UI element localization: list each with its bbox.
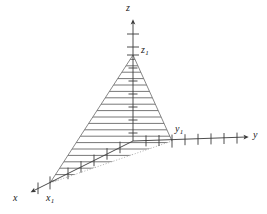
figure-container: z y x z1 y1 x1 xyxy=(0,0,267,214)
x-axis-label: x xyxy=(13,193,17,203)
triangle-edge-left xyxy=(50,55,133,183)
hatch-fill xyxy=(40,59,182,181)
z1-intercept-label: z1 xyxy=(141,45,149,57)
x-axis xyxy=(33,141,133,191)
triangle-outline xyxy=(50,55,172,183)
y-axis xyxy=(133,137,246,141)
z-axis-label: z xyxy=(126,3,130,13)
coordinate-diagram xyxy=(0,0,267,214)
z1-subscript: 1 xyxy=(145,49,149,57)
x1-intercept-label: x1 xyxy=(46,193,54,205)
y1-intercept-label: y1 xyxy=(175,124,183,136)
y1-subscript: 1 xyxy=(180,128,184,136)
x1-subscript: 1 xyxy=(51,197,55,205)
y-axis-label: y xyxy=(253,130,257,140)
